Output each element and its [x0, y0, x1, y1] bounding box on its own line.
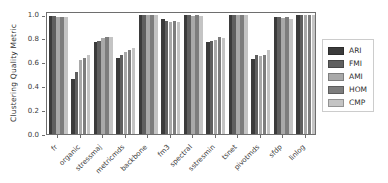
x-tick-mark — [147, 135, 148, 138]
x-tick-mark — [305, 135, 306, 138]
bar-organic-CMP — [87, 55, 91, 134]
bar-tsnet-CMP — [244, 15, 248, 134]
x-tick-mark — [237, 135, 238, 138]
y-tick-mark — [42, 16, 45, 17]
legend-label: ARI — [349, 47, 362, 55]
bar-pivotmds-CMP — [267, 50, 271, 134]
x-tick-label-fm3: fm3 — [156, 143, 171, 158]
y-tick-mark — [42, 111, 45, 112]
legend: ARIFMIAMIHOMCMP — [322, 39, 374, 112]
x-tick-mark — [80, 135, 81, 138]
y-tick-mark — [42, 87, 45, 88]
legend-item-HOM: HOM — [328, 83, 367, 96]
legend-item-CMP: CMP — [328, 96, 367, 109]
y-axis-label: Clustering Quality Metric — [9, 23, 18, 121]
bar-backbone-CMP — [154, 15, 158, 134]
legend-label: FMI — [349, 60, 362, 68]
x-tick-mark — [192, 135, 193, 138]
x-tick-mark — [215, 135, 216, 138]
y-tick-label: 0.6 — [21, 60, 39, 67]
y-tick-label: 0.8 — [21, 36, 39, 43]
y-tick-label: 0.2 — [21, 108, 39, 115]
x-tick-mark — [282, 135, 283, 138]
bar-sfdp-CMP — [289, 19, 293, 134]
legend-label: CMP — [349, 99, 365, 107]
bar-stressmaj-CMP — [109, 37, 113, 134]
bar-sstresmin-CMP — [222, 38, 226, 134]
x-tick-mark — [57, 135, 58, 138]
legend-label: HOM — [349, 86, 367, 94]
y-tick-mark — [42, 63, 45, 64]
legend-color-patch — [328, 86, 344, 94]
y-tick-label: 0.4 — [21, 84, 39, 91]
y-tick-label: 0.0 — [21, 132, 39, 139]
plot-area — [46, 12, 316, 135]
y-tick-label: 1.0 — [21, 12, 39, 19]
legend-item-ARI: ARI — [328, 44, 367, 57]
legend-item-AMI: AMI — [328, 70, 367, 83]
legend-color-patch — [328, 47, 344, 55]
x-tick-mark — [102, 135, 103, 138]
legend-label: AMI — [349, 73, 363, 81]
bar-metricmds-CMP — [132, 48, 136, 134]
bar-fr-CMP — [64, 17, 68, 134]
y-tick-mark — [42, 135, 45, 136]
legend-color-patch — [328, 73, 344, 81]
bar-linlog-CMP — [312, 15, 316, 134]
x-tick-label-fr: fr — [50, 143, 59, 152]
x-tick-mark — [170, 135, 171, 138]
legend-item-FMI: FMI — [328, 57, 367, 70]
x-tick-mark — [125, 135, 126, 138]
x-tick-label-linlog: linlog — [287, 143, 306, 162]
y-tick-mark — [42, 39, 45, 40]
x-tick-label-tsnet: tsnet — [221, 143, 239, 161]
bar-fm3-CMP — [177, 22, 181, 134]
clustering-quality-bar-chart: Clustering Quality Metric ARIFMIAMIHOMCM… — [0, 0, 388, 183]
x-tick-label-sfdp: sfdp — [268, 143, 284, 159]
legend-color-patch — [328, 60, 344, 68]
x-tick-mark — [260, 135, 261, 138]
legend-color-patch — [328, 99, 344, 107]
bar-spectral-CMP — [199, 16, 203, 134]
